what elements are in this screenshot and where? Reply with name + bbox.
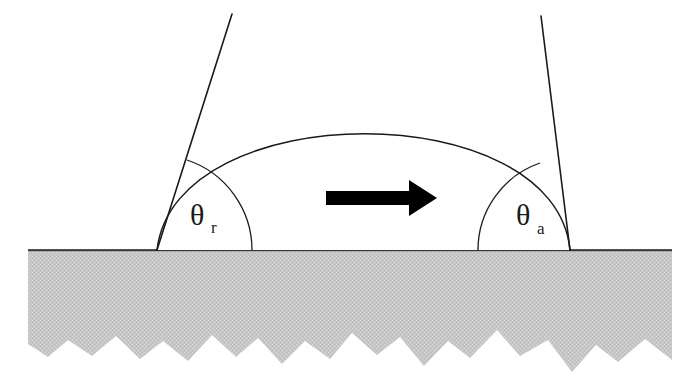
substrate-fill-shape [28, 250, 672, 372]
receding-angle-symbol: θ [190, 198, 204, 231]
contact-angle-diagram: θ r θ a [0, 0, 693, 391]
receding-angle-subscript: r [211, 218, 217, 237]
advancing-angle-symbol: θ [516, 198, 530, 231]
rough-solid-substrate [28, 250, 672, 372]
diagram-canvas: θ r θ a [0, 0, 693, 391]
advancing-angle-subscript: a [537, 219, 545, 238]
